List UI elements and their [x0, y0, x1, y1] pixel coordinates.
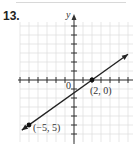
- line-arrow-end: [122, 54, 128, 60]
- y-axis-arrow: [72, 14, 77, 20]
- data-point: [27, 123, 32, 128]
- origin-label: 0: [66, 80, 71, 91]
- point-label: (2, 0): [90, 85, 112, 97]
- y-axis-label: y: [65, 9, 71, 20]
- point-label: (−5, 5): [33, 122, 60, 134]
- data-point: [90, 78, 95, 83]
- chart: (2, 0)(−5, 5) y 0: [0, 0, 133, 146]
